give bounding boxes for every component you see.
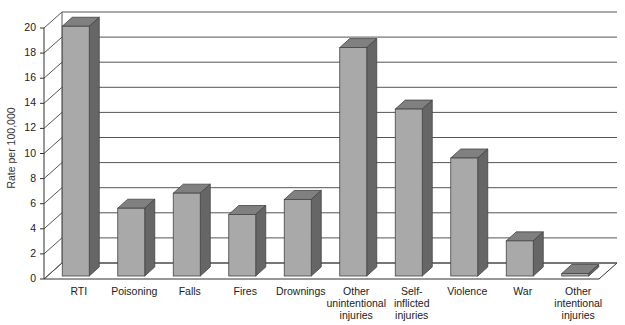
bar-fires — [229, 215, 256, 276]
gridline-side — [44, 163, 62, 179]
y-tick-label: 16 — [12, 71, 36, 83]
x-tick-label-line: inflicted — [372, 297, 452, 309]
bar-drownings — [284, 199, 311, 276]
bar-poisoning — [118, 208, 145, 276]
gridline-side — [44, 87, 62, 103]
y-tick-label: 6 — [12, 197, 36, 209]
gridline-side — [44, 12, 62, 28]
gridline-side — [44, 213, 62, 229]
gridline-side — [44, 37, 62, 53]
gridline-side — [44, 138, 62, 154]
bar-side — [311, 190, 321, 276]
bar-other-unintentional-injuries — [340, 48, 367, 276]
bar-side — [367, 39, 377, 276]
y-tick-label: 0 — [12, 272, 36, 284]
bar-side — [256, 206, 266, 276]
gridline-side — [44, 188, 62, 204]
y-tick-label: 18 — [12, 46, 36, 58]
bar-falls — [173, 193, 200, 276]
x-tick-label: Otherintentionalinjuries — [538, 285, 618, 321]
x-tick-label-line: injuries — [372, 309, 452, 321]
y-tick-label: 2 — [12, 247, 36, 259]
injury-rate-chart: Rate per 100,000 02468101214161820 RTIPo… — [0, 0, 625, 325]
x-tick-label-line: injuries — [538, 309, 618, 321]
y-tick-label: 14 — [12, 96, 36, 108]
bar-violence — [451, 158, 478, 276]
bar-self-inflicted-injuries — [395, 109, 422, 276]
bar-side — [89, 17, 99, 276]
y-tick-label: 4 — [12, 222, 36, 234]
bar-side — [200, 184, 210, 276]
y-tick-label: 20 — [12, 21, 36, 33]
x-tick-label-line: intentional — [538, 297, 618, 309]
bar-other-intentional-injuries — [562, 273, 589, 276]
y-tick-label: 12 — [12, 121, 36, 133]
bar-side — [145, 199, 155, 276]
y-tick-label: 8 — [12, 172, 36, 184]
gridline-side — [44, 112, 62, 128]
chart-plot-area — [0, 0, 625, 325]
gridline-side — [44, 62, 62, 78]
x-tick-label-line: Other — [538, 285, 618, 297]
gridline-side — [44, 238, 62, 254]
chart-title-cropped — [0, 0, 625, 3]
bar-war — [506, 241, 533, 276]
y-tick-label: 10 — [12, 147, 36, 159]
bar-side — [478, 149, 488, 276]
bar-side — [422, 100, 432, 276]
bar-rti — [62, 26, 89, 276]
